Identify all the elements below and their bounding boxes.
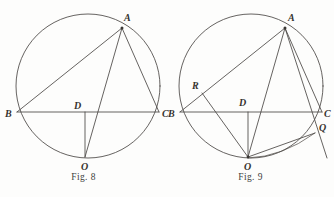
fig8-chord-AO [85, 28, 122, 157]
fig9-label-C: C [324, 108, 331, 119]
fig8-label-B: B [4, 108, 12, 119]
figure-8-group: A B C D O [4, 12, 169, 172]
fig9-label-D: D [238, 97, 246, 108]
fig8-chord-AB [17, 28, 122, 112]
fig9-chord-AO [248, 28, 285, 157]
fig8-label-O: O [81, 161, 88, 172]
fig9-label-B: B [167, 108, 175, 119]
fig8-circle [16, 14, 160, 158]
fig9-label-O: O [244, 161, 251, 172]
fig8-label-D: D [73, 100, 81, 111]
fig9-secant-AQ-extended [285, 28, 327, 158]
fig9-chord-AB [180, 28, 285, 112]
fig9-label-Q: Q [319, 122, 326, 133]
fig9-label-A: A [287, 12, 295, 23]
figure-8-caption: Fig. 8 [0, 172, 167, 182]
figure-9-group: A B C D O R Q [167, 12, 331, 172]
fig9-chord-AC [285, 28, 322, 112]
fig8-chord-AC [122, 28, 159, 112]
fig9-vertex-A-dot [284, 27, 287, 30]
fig8-vertex-A-dot [121, 27, 124, 30]
fig9-segment-OQ [248, 133, 315, 157]
fig8-label-A: A [123, 12, 131, 23]
fig9-circle [179, 14, 323, 158]
fig9-vertex-O-dot [247, 156, 250, 159]
figure-9-caption: Fig. 9 [167, 172, 334, 182]
figure-page: A B C D O A B C D O R Q [0, 0, 334, 197]
figures-canvas: A B C D O A B C D O R Q [0, 0, 334, 197]
fig9-label-R: R [191, 80, 199, 91]
